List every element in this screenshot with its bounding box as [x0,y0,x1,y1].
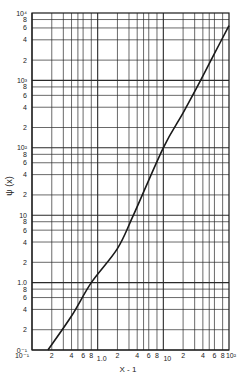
y-minor-tick-label: 4 [23,171,27,178]
y-minor-tick-label: 8 [23,218,27,225]
x-minor-tick-label: 6 [212,352,216,359]
y-minor-tick-label: 2 [23,57,27,64]
x-minor-tick-label: 8 [221,352,225,359]
y-axis-label: ψ (x) [4,176,14,195]
x-minor-tick-label: 6 [81,352,85,359]
y-major-tick-label: 0⁻¹ [17,347,28,354]
plot-frame [32,13,229,350]
x-minor-tick-label: 2 [50,352,54,359]
y-minor-tick-label: 8 [23,286,27,293]
psi-curve [48,26,229,350]
y-minor-tick-label: 8 [23,16,27,23]
y-minor-tick-label: 6 [23,294,27,301]
log-log-chart: 10⁻¹1.01010²246824682468 0⁻¹1.01010²10³1… [0,0,237,383]
y-minor-tick-label: 2 [23,191,27,198]
x-minor-tick-label: 2 [115,352,119,359]
y-minor-tick-label: 4 [23,239,27,246]
x-minor-tick-label: 2 [181,352,185,359]
x-minor-tick-label: 6 [147,352,151,359]
y-minor-tick-label: 2 [23,326,27,333]
x-minor-tick-label: 4 [135,352,139,359]
y-minor-tick-label: 6 [23,92,27,99]
y-minor-tick-label: 4 [23,36,27,43]
x-minor-tick-label: 8 [155,352,159,359]
y-minor-tick-label: 8 [23,151,27,158]
x-minor-tick-label: 4 [201,352,205,359]
y-minor-tick-label: 4 [23,104,27,111]
grid-lines [32,13,229,350]
x-tick-labels: 10⁻¹1.01010²246824682468 [15,352,237,362]
y-minor-tick-label: 2 [23,124,27,131]
y-minor-tick-label: 4 [23,306,27,313]
y-minor-tick-label: 2 [23,259,27,266]
x-major-tick-label: 1.0 [97,355,107,362]
x-major-tick-label: 10² [226,352,237,359]
x-major-tick-label: 10 [163,355,171,362]
y-minor-tick-label: 6 [23,159,27,166]
x-axis-label: X - 1 [120,365,137,374]
x-minor-tick-label: 8 [89,352,93,359]
y-minor-tick-label: 6 [23,24,27,31]
y-minor-tick-label: 6 [23,227,27,234]
y-minor-tick-label: 8 [23,83,27,90]
y-tick-labels: 0⁻¹1.01010²10³10⁴24682468246824682468 [16,10,27,354]
x-minor-tick-label: 4 [70,352,74,359]
